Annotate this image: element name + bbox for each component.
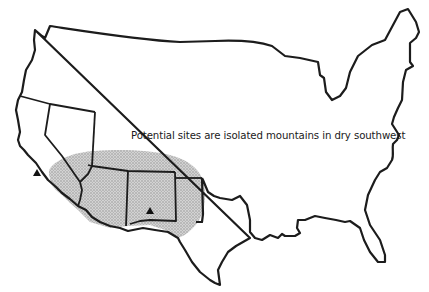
us-map [0, 0, 429, 292]
map-caption: Potential sites are isolated mountains i… [131, 130, 405, 141]
us-outline [16, 9, 419, 285]
